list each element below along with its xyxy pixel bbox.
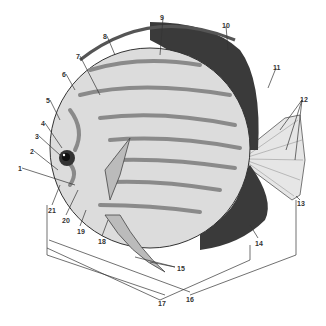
discus-anatomy-diagram: 1 2 3 4 5 6 7 8 9 10 11 12 13 14 15 16 1… <box>0 0 326 326</box>
label-18: 18 <box>98 238 106 245</box>
label-15: 15 <box>177 265 185 272</box>
label-6: 6 <box>62 71 66 78</box>
label-20: 20 <box>62 217 70 224</box>
label-4: 4 <box>41 120 45 127</box>
label-14: 14 <box>255 240 263 247</box>
label-12: 12 <box>300 96 308 103</box>
label-3: 3 <box>35 133 39 140</box>
label-19: 19 <box>77 228 85 235</box>
label-13: 13 <box>297 200 305 207</box>
label-9: 9 <box>160 14 164 21</box>
label-1: 1 <box>18 165 22 172</box>
label-16: 16 <box>186 296 194 303</box>
label-17: 17 <box>158 300 166 307</box>
label-8: 8 <box>103 33 107 40</box>
label-7: 7 <box>76 53 80 60</box>
fish-body <box>50 48 250 248</box>
label-5: 5 <box>46 97 50 104</box>
label-21: 21 <box>48 207 56 214</box>
label-2: 2 <box>30 148 34 155</box>
label-10: 10 <box>222 22 230 29</box>
fish-illustration <box>0 0 326 326</box>
label-11: 11 <box>273 64 280 71</box>
